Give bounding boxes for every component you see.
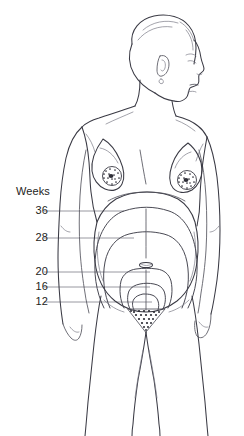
right-hand-crease	[199, 322, 208, 327]
legs-group	[85, 296, 208, 436]
flank-left	[97, 232, 103, 281]
umbilicus	[140, 262, 153, 267]
shoulder-left	[82, 106, 135, 127]
ear-inner	[161, 60, 165, 71]
left-areola	[103, 167, 122, 186]
leader-lines	[44, 211, 152, 302]
left-arm-outer	[58, 127, 82, 324]
hair-outline	[132, 15, 196, 64]
left-thigh-crease	[135, 350, 143, 398]
shoulder-right	[176, 116, 207, 137]
right-arm-outer	[207, 137, 220, 314]
trunk-left-side	[82, 127, 97, 222]
hair-strand-1	[143, 21, 178, 30]
eyebrow	[186, 54, 196, 56]
trunk-right-side	[197, 137, 207, 226]
figure-drawing	[0, 0, 244, 436]
neck-left	[135, 80, 140, 106]
left-hand-crease	[70, 327, 79, 332]
left-thigh-inner	[132, 332, 146, 436]
sternum-line	[140, 150, 146, 184]
right-breast-outline	[170, 143, 202, 192]
legend-label-36-weeks: 36	[18, 204, 48, 216]
legend-label-12-weeks: 12	[18, 295, 48, 307]
mouth-line	[190, 84, 198, 85]
legend-label-28-weeks: 28	[18, 231, 48, 243]
right-thigh-crease	[149, 350, 157, 398]
left-elbow-crease	[61, 226, 70, 232]
left-breast-upper-curve	[100, 148, 118, 163]
hair-strand-2	[138, 27, 172, 40]
fundal-height-illustration: Weeks 36 28 20 16 12	[0, 0, 244, 436]
breasts-group	[92, 139, 202, 192]
right-hip-crease	[169, 300, 189, 312]
face-profile	[174, 40, 204, 101]
earring	[159, 79, 163, 84]
clavicle-left	[106, 112, 133, 124]
neck-shoulder-group	[82, 80, 207, 137]
left-arm-inner	[79, 150, 89, 313]
ear-outline	[157, 55, 169, 76]
head-group	[130, 15, 204, 101]
legend-label-20-weeks: 20	[18, 265, 48, 277]
legend-header: Weeks	[16, 185, 50, 197]
nape-line	[130, 44, 155, 93]
hairline-forehead	[186, 30, 193, 50]
right-arm-inner	[198, 150, 207, 313]
jaw-line	[155, 93, 174, 101]
right-areola	[178, 171, 197, 190]
right-elbow-crease	[210, 226, 219, 232]
right-thigh-outer	[192, 296, 208, 436]
chin-crease	[188, 91, 196, 92]
right-thigh-inner	[146, 332, 160, 436]
left-thigh-outer	[85, 296, 101, 436]
neck-right	[172, 101, 176, 116]
arms-group	[58, 127, 220, 340]
legend-label-16-weeks: 16	[18, 280, 48, 292]
